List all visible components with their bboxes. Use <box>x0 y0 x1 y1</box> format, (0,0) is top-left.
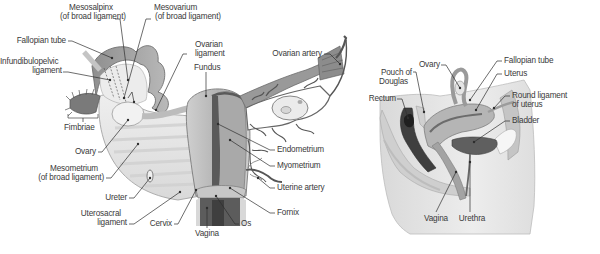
label-ureter: Ureter <box>90 193 127 202</box>
label-line: Uterosacral <box>70 209 127 218</box>
label-fallopian-tube-sagittal: Fallopian tube <box>504 56 553 65</box>
label-fimbriae: Fimbriae <box>64 123 95 132</box>
label-ovary-sagittal: Ovary <box>416 60 440 69</box>
label-line: Infundibulopelvic <box>0 57 62 66</box>
label-fornix: Fornix <box>277 208 299 217</box>
label-vagina: Vagina <box>190 229 224 238</box>
label-fallopian-tube: Fallopian tube <box>2 36 66 45</box>
label-line: Mesosalpinx <box>60 3 122 12</box>
label-line: Pouch of <box>370 68 412 77</box>
label-line: (of broad ligament) <box>30 173 104 182</box>
label-ovarian-ligament: Ovarian ligament <box>195 40 225 59</box>
label-ovary: Ovary <box>62 147 96 156</box>
label-line: ligament <box>0 66 62 75</box>
label-line: ligament <box>195 49 225 58</box>
label-uterus: Uterus <box>504 69 527 78</box>
label-cervix: Cervix <box>142 219 172 228</box>
frontal-uterus-diagram: Mesosalpinx (of broad ligament) Mesovari… <box>0 0 360 254</box>
label-line: Round ligament <box>512 91 567 100</box>
label-infundibulopelvic-ligament: Infundibulopelvic ligament <box>0 57 62 76</box>
label-rectum: Rectum <box>360 94 396 103</box>
label-fundus: Fundus <box>194 63 220 72</box>
label-mesometrium: Mesometrium (of broad ligament) <box>30 164 104 183</box>
label-line: of uterus <box>512 100 567 109</box>
label-uterine-artery: Uterine artery <box>277 183 325 192</box>
label-uterosacral-ligament: Uterosacral ligament <box>70 209 127 228</box>
label-os: Os <box>241 219 251 228</box>
label-ovarian-artery: Ovarian artery <box>262 49 322 58</box>
label-myometrium: Myometrium <box>277 161 321 170</box>
label-round-ligament: Round ligament of uterus <box>512 91 567 110</box>
label-line: (of broad ligament) <box>60 12 122 21</box>
label-mesosalpinx: Mesosalpinx (of broad ligament) <box>60 3 122 22</box>
label-line: Douglas <box>370 77 412 86</box>
label-line: Mesometrium <box>30 164 104 173</box>
label-line: Ovarian <box>195 40 225 49</box>
fimbriae-left <box>65 89 100 116</box>
label-line: (of broad ligament) <box>152 12 224 21</box>
label-mesovarium: Mesovarium (of broad ligament) <box>152 3 224 22</box>
label-bladder: Bladder <box>512 116 539 125</box>
label-urethra: Urethra <box>456 214 488 223</box>
ovary-left <box>112 102 144 126</box>
label-line: ligament <box>70 218 127 227</box>
label-vagina-sagittal: Vagina <box>420 214 452 223</box>
label-pouch-of-douglas: Pouch of Douglas <box>370 68 412 87</box>
label-line: Mesovarium <box>152 3 224 12</box>
label-endometrium: Endometrium <box>277 145 324 154</box>
sagittal-pelvis-diagram: Ovary Pouch of Douglas Rectum Fallopian … <box>360 0 600 254</box>
cervix <box>196 186 246 199</box>
